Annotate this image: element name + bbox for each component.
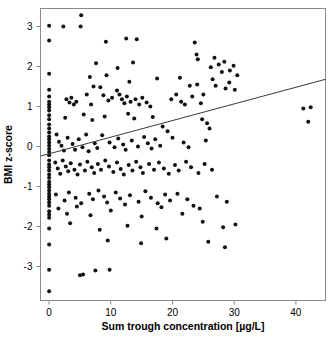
data-point	[149, 196, 153, 200]
data-point	[224, 87, 228, 91]
data-point	[127, 80, 131, 84]
data-point	[85, 93, 89, 97]
data-point	[47, 243, 51, 247]
data-point	[66, 136, 70, 140]
data-point	[47, 159, 51, 163]
data-point	[195, 53, 199, 57]
data-point	[98, 85, 102, 89]
data-point	[58, 172, 62, 176]
data-point	[134, 97, 138, 101]
data-point	[83, 169, 87, 173]
data-point	[105, 73, 109, 77]
data-point	[81, 273, 85, 277]
data-point	[138, 165, 142, 169]
data-point	[90, 118, 94, 122]
data-point	[235, 73, 239, 77]
data-point	[96, 162, 100, 166]
data-point	[159, 205, 163, 209]
data-point	[92, 85, 96, 89]
data-point	[122, 173, 126, 177]
data-point	[105, 201, 109, 205]
data-point	[116, 137, 120, 141]
data-point	[187, 145, 191, 149]
data-point	[158, 144, 162, 148]
x-tick-label: 30	[229, 307, 241, 318]
data-point	[90, 165, 94, 169]
x-tick-label: 20	[167, 307, 179, 318]
data-point	[76, 173, 80, 177]
data-point	[232, 64, 236, 68]
data-point	[47, 204, 51, 208]
data-point	[130, 169, 134, 173]
data-point	[156, 201, 160, 205]
data-point	[72, 168, 76, 172]
data-point	[148, 105, 152, 109]
data-point	[63, 199, 67, 203]
data-point	[126, 112, 130, 116]
y-tick-label: 3	[27, 21, 33, 32]
data-point	[59, 144, 63, 148]
data-point	[167, 172, 171, 176]
data-point	[182, 141, 186, 145]
data-point	[92, 171, 96, 175]
data-point	[152, 168, 156, 172]
data-point	[124, 37, 128, 41]
data-point	[57, 140, 61, 144]
data-point	[108, 268, 112, 272]
y-tick-label: -2	[24, 221, 33, 232]
data-point	[206, 240, 210, 244]
data-point	[56, 167, 60, 171]
data-point	[47, 123, 51, 127]
data-point	[183, 103, 187, 107]
data-point	[208, 127, 212, 131]
data-point	[116, 66, 120, 70]
data-point	[103, 115, 107, 119]
data-point	[188, 84, 192, 88]
data-point	[189, 165, 193, 169]
data-point	[139, 241, 143, 245]
data-point	[108, 141, 112, 145]
data-point	[61, 159, 65, 163]
data-point	[154, 227, 158, 231]
data-point	[128, 193, 132, 197]
data-point	[233, 223, 237, 227]
data-point	[143, 189, 147, 193]
data-point	[67, 191, 71, 195]
data-point	[69, 161, 73, 165]
data-point	[111, 170, 115, 174]
data-point	[185, 197, 189, 201]
data-point	[301, 107, 305, 111]
data-point	[69, 96, 73, 100]
data-point	[150, 147, 154, 151]
y-tick-label: -3	[24, 261, 33, 272]
data-point	[73, 148, 77, 152]
data-point	[223, 245, 227, 249]
data-point	[130, 139, 134, 143]
data-point	[175, 192, 179, 196]
chart-canvas: 3210-1-2-3 010203040 Sum trough concentr…	[0, 0, 330, 340]
data-point	[106, 239, 110, 243]
y-tick-label: 0	[27, 141, 33, 152]
data-point	[74, 196, 78, 200]
data-point	[198, 207, 202, 211]
data-point	[68, 221, 72, 225]
data-point	[199, 101, 203, 105]
data-point	[63, 116, 67, 120]
data-point	[84, 133, 88, 137]
y-tick-label: 1	[27, 101, 33, 112]
data-point	[153, 137, 157, 141]
data-point	[113, 145, 117, 149]
data-point	[80, 145, 84, 149]
data-point	[129, 100, 133, 104]
data-point	[64, 97, 68, 101]
data-point	[66, 169, 70, 173]
data-point	[163, 193, 167, 197]
data-point	[79, 13, 83, 17]
data-point	[53, 161, 57, 165]
data-point	[145, 101, 149, 105]
data-point	[221, 225, 225, 229]
data-point	[215, 195, 219, 199]
data-point	[118, 197, 122, 201]
data-point	[210, 168, 214, 172]
data-point	[96, 189, 100, 193]
